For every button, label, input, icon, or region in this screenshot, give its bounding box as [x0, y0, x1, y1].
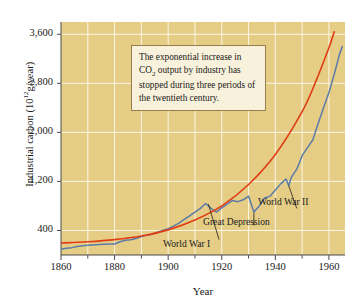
y-axis-title: Industrial carbon (1012g/year)	[22, 24, 35, 224]
x-tick-label-1960: 1960	[309, 261, 349, 272]
x-tick-label-1920: 1920	[202, 261, 242, 272]
x-axis-title: Year	[61, 285, 345, 297]
x-tick-label-1880: 1880	[95, 261, 135, 272]
chart-figure: Industrial carbon (1012g/year) Year 4001…	[0, 0, 355, 308]
annotation-world-war-i: World War I	[163, 238, 210, 249]
x-tick-label-1940: 1940	[255, 261, 295, 272]
callout-line-1: The exponential increase in	[139, 52, 241, 62]
x-tick-label-1860: 1860	[41, 261, 81, 272]
callout-line-2b: output by industry has	[155, 65, 240, 75]
y-tick-label-1200: 1,200	[13, 174, 53, 185]
annotation-world-war-ii: World War II	[258, 196, 309, 207]
annotation-great-depression: Great Depression	[203, 216, 270, 227]
x-tick-label-1900: 1900	[148, 261, 188, 272]
y-tick-label-2800: 2,800	[13, 76, 53, 87]
callout-textbox: The exponential increase in CO2 output b…	[131, 45, 266, 111]
y-tick-label-3600: 3,600	[13, 27, 53, 38]
callout-line-3: stopped during three periods	[139, 80, 245, 90]
y-tick-label-400: 400	[13, 223, 53, 234]
y-tick-label-2000: 2,000	[13, 125, 53, 136]
callout-line-2a: CO	[139, 65, 152, 75]
